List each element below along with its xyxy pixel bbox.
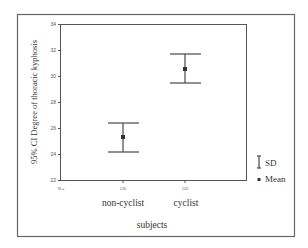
ytick-32: 32	[50, 47, 56, 53]
ytick-34: 34	[50, 21, 56, 27]
ytick-30: 30	[50, 73, 56, 79]
n-value-non-cyclist: 120	[120, 186, 127, 191]
category-cyclist: cyclist	[174, 198, 199, 208]
legend-sd-label: SD	[265, 158, 277, 168]
category-non-cyclist: non-cyclist	[102, 198, 145, 208]
mean-icon	[258, 178, 261, 181]
mean-marker-non-cyclist	[121, 135, 125, 139]
plot-area	[61, 25, 247, 181]
ytick-22: 22	[50, 177, 56, 183]
y-axis-label: 95% CI Degree of thoracic kyphosis	[29, 40, 39, 164]
ytick-28: 28	[50, 99, 56, 105]
ytick-24: 24	[50, 151, 56, 157]
mean-marker-cyclist	[183, 67, 187, 71]
n-label: N =	[58, 186, 65, 191]
n-value-cyclist: 120	[182, 186, 189, 191]
x-axis-label: subjects	[137, 220, 168, 230]
ytick-26: 26	[50, 125, 56, 131]
legend-mean-label: Mean	[265, 174, 286, 184]
chart: 22 24 26 28 30 32 34 95% CI Degree of th…	[0, 0, 308, 248]
